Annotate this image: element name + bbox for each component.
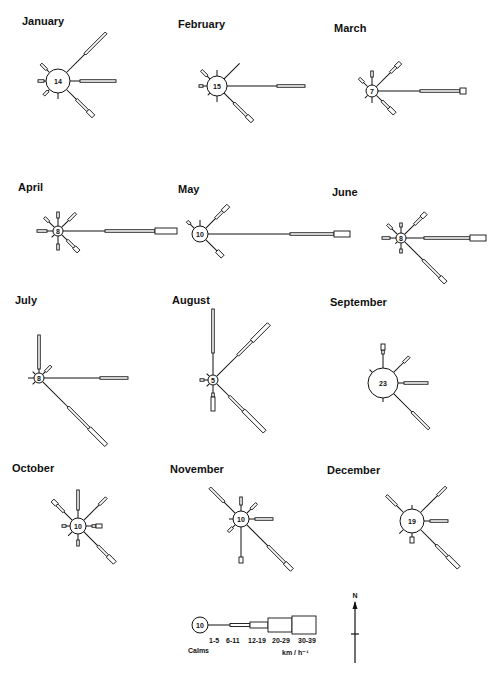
wind-arm-ne (393, 356, 410, 373)
wind-arm-sw (52, 235, 55, 238)
wind-rose-november: November10 (170, 463, 293, 571)
wind-arm-ne (403, 212, 427, 236)
wind-arm-ne (66, 32, 107, 73)
wind-arm-s (211, 385, 215, 411)
month-label: March (334, 22, 367, 34)
wind-arm-se (60, 233, 80, 253)
wind-rose-august: August5 (172, 294, 270, 433)
wind-arm-e (70, 80, 116, 83)
wind-arm-ne (204, 204, 229, 229)
wind-rose-july: July8 (15, 294, 128, 447)
wind-arm-se (375, 94, 396, 115)
wind-arm-e (208, 231, 350, 237)
wind-arm-ne (42, 365, 52, 375)
wind-arm-sw (33, 382, 36, 385)
wind-arm-nw (387, 224, 399, 236)
wind-arm-n (57, 212, 60, 226)
wind-arm-e (44, 377, 128, 380)
wind-arm-nw (207, 374, 210, 377)
calm-value: 7 (370, 88, 374, 95)
wind-arm-se (223, 92, 254, 123)
month-label: September (330, 296, 388, 308)
legend-class-4: 30-39 (298, 637, 316, 644)
wind-arm-nw (40, 63, 50, 73)
wind-arm-se (82, 530, 116, 564)
wind-rose-december: December19 (327, 464, 460, 569)
wind-arm-w (38, 80, 46, 83)
wind-arm-s (239, 527, 243, 563)
wind-arm-sw (399, 529, 403, 533)
wind-arm-nw (33, 372, 36, 375)
wind-arm-n (77, 490, 80, 518)
wind-arm-nw (51, 499, 74, 522)
calm-value: 5 (211, 377, 215, 384)
wind-arm-nw (201, 70, 211, 80)
wind-rose-june: June8 (332, 186, 486, 284)
calm-value: 15 (213, 83, 221, 90)
wind-arm-n (212, 309, 215, 375)
wind-arm-n (400, 223, 403, 233)
north-label: N (352, 592, 357, 599)
wind-arm-sw (365, 95, 368, 98)
month-label: February (178, 18, 226, 30)
month-label: November (170, 463, 225, 475)
calm-value: 10 (74, 523, 82, 530)
calm-value: 19 (408, 518, 416, 525)
calm-value: 10 (196, 231, 204, 238)
month-label: October (12, 462, 55, 474)
wind-arm-w (382, 237, 396, 240)
wind-arm-s (400, 243, 403, 253)
legend-class-0: 1-5 (209, 637, 219, 644)
calm-value: 14 (54, 78, 62, 85)
wind-arm-ne (224, 63, 240, 79)
wind-arm-e (227, 85, 305, 88)
wind-arm-e (249, 518, 273, 521)
month-label: August (172, 294, 210, 306)
wind-arm-n (240, 497, 243, 511)
month-label: April (18, 181, 43, 193)
wind-arm-se (403, 240, 447, 284)
month-label: December (327, 464, 381, 476)
calm-value: 8 (37, 375, 41, 382)
wind-arm-nw (370, 370, 373, 373)
wind-rose-march: March7 (334, 22, 466, 115)
legend-class-3: 20-29 (272, 637, 290, 644)
wind-arm-w (200, 379, 208, 382)
wind-arm-s (77, 534, 80, 546)
legend-class-1: 6-11 (226, 637, 240, 644)
wind-arm-n (381, 344, 385, 368)
month-label: May (178, 183, 200, 195)
wind-arm-nw (386, 495, 405, 514)
wind-arm-w (37, 230, 53, 233)
wind-rose-may: May10 (178, 183, 350, 258)
wind-rose-september: September23 (330, 296, 430, 430)
calm-value: 10 (237, 516, 245, 523)
wind-arm-s (410, 533, 414, 543)
wind-arm-ne (375, 61, 402, 88)
wind-arm-se (215, 382, 266, 433)
wind-arm-se (204, 238, 224, 258)
wind-rose-april: April8 (18, 181, 177, 253)
wind-arm-n (38, 335, 41, 373)
wind-arm-e (86, 524, 102, 528)
wind-arm-e (398, 382, 428, 385)
wind-arm-nw (186, 220, 195, 229)
legend-unit-label: km / h⁻¹ (282, 649, 309, 656)
wind-rose-grid: January14February15March7April8May10June… (12, 15, 486, 571)
legend-speed-bar (208, 616, 316, 634)
wind-arm-sw (227, 524, 236, 533)
wind-rose-february: February15 (178, 18, 305, 123)
legend-class-2: 12-19 (248, 637, 266, 644)
wind-arm-nw (209, 487, 236, 514)
wind-arm-se (419, 528, 460, 569)
wind-arm-se (41, 380, 107, 446)
wind-arm-e (63, 228, 177, 234)
wind-arm-sw (68, 532, 72, 536)
wind-arm-nw (358, 77, 368, 87)
month-label: July (15, 294, 38, 306)
calm-value: 8 (56, 228, 60, 235)
wind-rose-october: October10 (12, 462, 116, 564)
legend-calms-label: Calms (188, 647, 209, 654)
wind-arm-se (245, 523, 293, 571)
wind-arm-ne (246, 503, 258, 515)
